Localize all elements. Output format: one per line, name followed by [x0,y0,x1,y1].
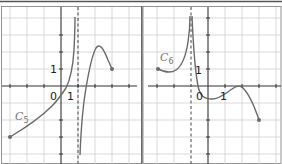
x-unit-label: 1 [220,90,227,103]
y-unit-label: 1 [50,63,57,76]
endpoint-dot [156,67,160,71]
figure-background [1,1,282,163]
endpoint-dot [110,67,114,71]
endpoint-dot [257,118,261,122]
x-unit-label: 1 [67,90,74,103]
figure: 0 1 1 C5 [0,0,282,164]
endpoint-dot [8,135,12,139]
origin-label: 0 [50,90,57,103]
origin-label: 0 [196,90,203,103]
y-unit-label: 1 [195,64,202,77]
